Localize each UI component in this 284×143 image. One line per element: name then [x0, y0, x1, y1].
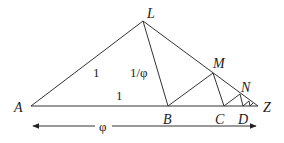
- edge-label-AL: 1: [93, 65, 100, 80]
- point-label-M: M: [212, 56, 226, 71]
- point-label-C: C: [215, 112, 225, 127]
- segment-AL: [31, 21, 143, 106]
- segment-ND: [240, 94, 243, 106]
- point-label-Z: Z: [263, 100, 271, 115]
- point-label-B: B: [163, 112, 172, 127]
- segment-MC: [213, 73, 224, 106]
- point-label-L: L: [146, 6, 155, 21]
- point-label-N: N: [240, 80, 251, 95]
- edge-label-AB: 1: [116, 88, 123, 103]
- segment-nested-1: [243, 101, 249, 106]
- segment-LB: [143, 21, 168, 106]
- segment-nested-2: [249, 101, 250, 106]
- segment-BM: [168, 73, 213, 106]
- segment-CN: [224, 94, 240, 106]
- edge-label-LB: 1/φ: [130, 65, 148, 80]
- golden-triangle-diagram: A L B M C N D Z 1 1/φ 1 φ: [0, 0, 284, 143]
- point-label-D: D: [237, 112, 248, 127]
- edge-label-AZ-phi: φ: [99, 119, 107, 134]
- point-label-A: A: [13, 100, 23, 115]
